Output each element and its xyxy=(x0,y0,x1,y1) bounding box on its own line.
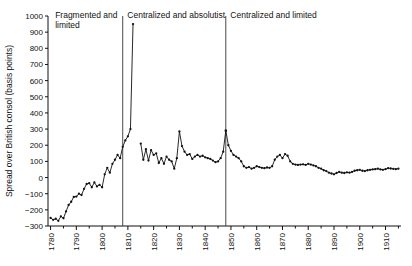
data-point xyxy=(238,157,240,159)
y-tick-label: 900 xyxy=(30,28,44,37)
data-point xyxy=(310,163,312,165)
data-point xyxy=(256,165,258,167)
data-point xyxy=(395,168,397,170)
data-point xyxy=(178,130,180,132)
data-point xyxy=(183,151,185,153)
x-tick-label: 1890 xyxy=(330,232,339,250)
data-point xyxy=(194,155,196,157)
data-point xyxy=(86,183,88,185)
data-point xyxy=(276,155,278,157)
y-tick-label: 300 xyxy=(30,125,44,134)
x-tick-label: 1810 xyxy=(124,232,133,250)
data-point xyxy=(214,161,216,163)
data-point xyxy=(299,163,301,165)
data-point xyxy=(315,165,317,167)
data-point xyxy=(325,170,327,172)
data-point xyxy=(83,188,85,190)
data-point xyxy=(209,158,211,160)
chart-canvas: −300−200−1000100200300400500600700800900… xyxy=(0,0,412,266)
data-point xyxy=(361,170,363,172)
y-tick-label: 500 xyxy=(30,93,44,102)
data-point xyxy=(49,217,51,219)
data-point xyxy=(152,154,154,156)
data-point xyxy=(374,168,376,170)
data-point xyxy=(227,144,229,146)
data-point xyxy=(359,169,361,171)
data-point xyxy=(116,154,118,156)
data-point xyxy=(106,167,108,169)
data-point xyxy=(343,172,345,174)
regime-centralized-absolutist: Centralized and absolutist xyxy=(127,10,225,20)
data-point xyxy=(323,169,325,171)
x-tick-label: 1910 xyxy=(382,232,391,250)
x-tick-label: 1800 xyxy=(98,232,107,250)
data-point xyxy=(341,172,343,174)
data-point xyxy=(390,167,392,169)
data-point xyxy=(186,154,188,156)
x-tick-label: 1830 xyxy=(175,232,184,250)
regime-centralized-limited: Centralized and limited xyxy=(230,10,317,20)
y-tick-label: 400 xyxy=(30,109,44,118)
chart-figure: −300−200−1000100200300400500600700800900… xyxy=(0,0,412,266)
y-tick-label: −200 xyxy=(25,206,44,215)
y-tick-label: 0 xyxy=(39,174,44,183)
data-point xyxy=(219,157,221,159)
data-point xyxy=(55,218,57,220)
data-point xyxy=(93,181,95,183)
data-point xyxy=(317,167,319,169)
data-point xyxy=(235,155,237,157)
data-point xyxy=(292,163,294,165)
data-point xyxy=(230,150,232,152)
data-point xyxy=(302,163,304,165)
data-point xyxy=(294,163,296,165)
data-point xyxy=(338,171,340,173)
data-point xyxy=(356,169,358,171)
data-point xyxy=(73,196,75,198)
y-axis-label: Spread over British consol (basis points… xyxy=(4,45,14,197)
data-point xyxy=(78,193,80,195)
data-point xyxy=(353,170,355,172)
data-point xyxy=(104,173,106,175)
data-point xyxy=(364,170,366,172)
data-point xyxy=(65,210,67,212)
data-point xyxy=(176,157,178,159)
data-point xyxy=(189,153,191,155)
data-point xyxy=(248,166,250,168)
data-point xyxy=(160,157,162,159)
data-point xyxy=(96,185,98,187)
data-point xyxy=(111,163,113,165)
data-point xyxy=(284,153,286,155)
data-point xyxy=(173,168,175,170)
data-point xyxy=(328,172,330,174)
data-point xyxy=(181,145,183,147)
data-point xyxy=(297,164,299,166)
data-point xyxy=(91,186,93,188)
y-tick-label: 1000 xyxy=(25,12,43,21)
data-point xyxy=(98,184,100,186)
data-point xyxy=(88,182,90,184)
data-point xyxy=(330,172,332,174)
data-point xyxy=(307,163,309,165)
y-tick-label: 600 xyxy=(30,77,44,86)
data-point xyxy=(52,219,54,221)
data-point xyxy=(379,168,381,170)
data-point xyxy=(281,157,283,159)
data-point xyxy=(240,160,242,162)
data-point xyxy=(335,172,337,174)
data-point xyxy=(207,157,209,159)
data-point xyxy=(266,166,268,168)
data-point xyxy=(279,154,281,156)
data-point xyxy=(158,162,160,164)
data-point xyxy=(191,158,193,160)
x-tick-label: 1790 xyxy=(72,232,81,250)
data-point xyxy=(67,204,69,206)
data-point xyxy=(129,128,131,130)
data-point xyxy=(204,156,206,158)
data-point xyxy=(109,172,111,174)
data-point xyxy=(372,168,374,170)
regime-fragmented-limited: limited xyxy=(55,20,80,30)
data-point xyxy=(70,201,72,203)
data-point xyxy=(366,169,368,171)
y-tick-label: 700 xyxy=(30,60,44,69)
data-point xyxy=(140,142,142,144)
